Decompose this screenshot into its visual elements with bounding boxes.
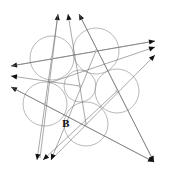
arrowhead-icon <box>66 14 71 20</box>
line-6 <box>11 41 155 66</box>
lines-group <box>11 14 155 162</box>
arrowhead-icon <box>149 39 155 44</box>
line-0 <box>40 14 58 158</box>
label-b: B <box>62 119 70 129</box>
line-4 <box>11 76 80 86</box>
line-13 <box>79 14 154 162</box>
line-11 <box>51 51 96 160</box>
circle-top-left-center-point <box>51 57 53 59</box>
arrowhead-icon <box>11 74 17 79</box>
circle-bottom-center-point <box>85 123 87 125</box>
circles-diagram: B <box>0 0 169 180</box>
line-7 <box>49 47 155 83</box>
circle-center-center-point <box>79 85 81 87</box>
line-10 <box>43 91 117 160</box>
circle-top-right-center-point <box>95 50 97 52</box>
arrowhead-icon <box>35 154 40 160</box>
circle-left-center-point <box>44 103 46 105</box>
line-12 <box>11 87 154 162</box>
circle-right-center-point <box>116 90 118 92</box>
line-9 <box>37 14 58 160</box>
arrowhead-icon <box>148 46 155 51</box>
